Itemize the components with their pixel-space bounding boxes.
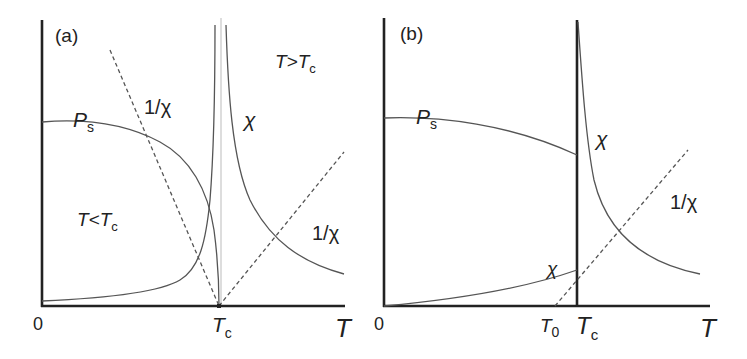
origin-label-a: 0 [33,314,43,334]
ps-label-a: Ps [73,108,94,135]
tc-label-b: Tc [576,312,599,343]
chi-label-a: χ [242,108,256,131]
chi-label-upper: χ [594,127,608,150]
inv-chi-line [555,150,688,306]
tc-marker [217,304,221,308]
x-axis-label-a: T [335,313,353,343]
inv-chi-line-below-tc [110,50,219,306]
t0-label: T0 [540,315,560,340]
panel-b-tag: (b) [400,23,423,44]
ps-curve [384,118,577,155]
origin-label-b: 0 [374,314,384,334]
phase-transition-diagram: (a) Ps 1/χ χ T>Tc T<Tc 1/χ 0 Tc T (b) Ps… [0,0,747,359]
region-below-tc-label: T<Tc [77,209,118,234]
chi-curve-below-tc [42,25,215,301]
panel-a: (a) Ps 1/χ χ T>Tc T<Tc 1/χ 0 Tc T [33,18,353,343]
inv-chi-label-left: 1/χ [144,96,172,118]
inv-chi-label-b: 1/χ [670,191,698,213]
region-above-tc-label: T>Tc [275,51,316,76]
ps-curve [42,121,219,306]
panel-a-tag: (a) [55,25,78,46]
ps-label-b: Ps [416,105,437,132]
inv-chi-label-right: 1/χ [312,222,340,244]
tc-label-a: Tc [212,313,232,341]
panel-b: (b) Ps χ χ 1/χ 0 T0 Tc T [374,18,718,343]
chi-label-lower: χ [545,258,558,279]
x-axis-label-b: T [700,313,718,343]
